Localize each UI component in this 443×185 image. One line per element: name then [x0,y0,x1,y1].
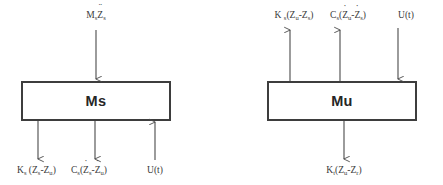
block-label-ms: Ms [86,93,107,109]
diagram-vector-layer [0,0,443,185]
label-ms-mass-symbol: Ms [86,10,97,20]
label-ms-actuator-force: U(t) [147,166,163,176]
free-body-diagram: Ms Mu MsZs Ks (Zs-Zu) Cs(Zs-Zu) U(t) K s… [0,0,443,185]
block-label-mu: Mu [331,93,353,109]
label-mu-damper-force: Cs(Zu-Zs) [330,11,366,21]
label-mu-actuator-force: U(t) [398,11,414,21]
label-ms-damper-force: Cs(Zs-Zu) [71,166,107,176]
label-mu-spring-force: K s(Zu-Zs) [275,11,314,21]
label-ms-spring-force: Ks (Zs-Zu) [17,166,56,176]
label-ms-accel-symbol: Z [97,11,103,21]
label-ms-input-force: MsZs [86,11,105,21]
label-mu-tire-force: Kt(Zu-Zr) [326,166,361,176]
